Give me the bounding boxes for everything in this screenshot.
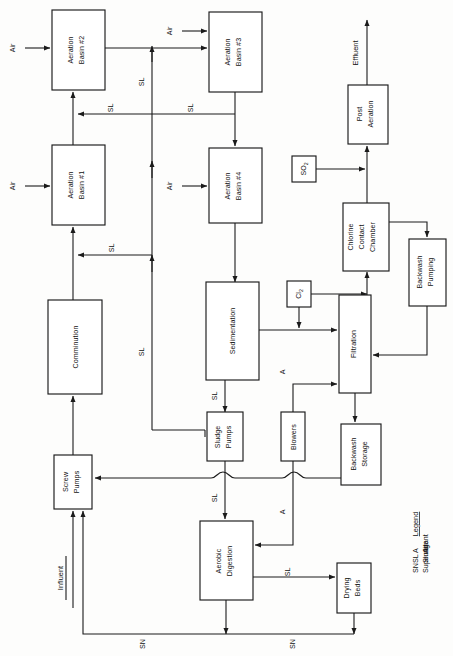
node-label-line1: Blowers bbox=[290, 424, 298, 450]
node-label-line1: Aeration bbox=[67, 36, 75, 63]
legend-heading: Legend bbox=[411, 512, 420, 537]
legend-code-sl: SL bbox=[412, 554, 420, 563]
legend: Legend A Air SL Sludge SN Supernatant bbox=[411, 512, 430, 573]
sn-label-right: SN bbox=[289, 639, 297, 649]
sl-label-return-lower: SL bbox=[108, 244, 116, 253]
legend-code-a: A bbox=[412, 548, 420, 553]
node-label-line1: Aeration bbox=[67, 171, 75, 198]
node-label-line1: Aeration bbox=[224, 172, 232, 199]
node-label-line1: Sedimentation bbox=[229, 308, 237, 355]
legend-code-sn: SN bbox=[412, 563, 420, 573]
a-label-blowers-filtration: A bbox=[279, 369, 287, 374]
node-sludge-pumps[interactable]: Sludge Pumps bbox=[207, 412, 243, 461]
node-aeration-basin-1[interactable]: Aeration Basin #1 bbox=[52, 145, 105, 225]
node-comminution[interactable]: Comminution bbox=[48, 300, 102, 394]
node-cl2-feed[interactable]: Cl2 bbox=[287, 281, 311, 307]
bus-hop-blowers bbox=[282, 472, 306, 478]
air-label-aeration4: Air bbox=[166, 181, 174, 190]
node-label-line2: Basin #1 bbox=[78, 171, 86, 199]
node-label-line2: Pumps bbox=[225, 425, 233, 448]
node-label-line2: Aeration bbox=[367, 100, 375, 127]
sn-label-left: SN bbox=[139, 639, 147, 649]
node-backwash-pumping[interactable]: Backwash Pumping bbox=[409, 239, 446, 306]
sl-label-trunk-bottom: SL bbox=[138, 348, 146, 357]
node-label-line2: Basin #4 bbox=[235, 172, 243, 200]
sl-label-to-aerobicdig: SL bbox=[211, 494, 219, 503]
node-layer: Aeration Basin #2 Aeration Basin #1 Comm… bbox=[48, 10, 446, 613]
sl-label-to-dryingbeds: SL bbox=[284, 568, 292, 577]
bus-hop-sludge bbox=[211, 472, 235, 478]
node-label-line1: Comminution bbox=[72, 326, 80, 369]
node-label-line3: Chamber bbox=[369, 222, 377, 252]
sl-label-return-upper-left: SL bbox=[107, 104, 115, 113]
terminal-influent: Influent bbox=[56, 566, 65, 590]
node-screw-pumps[interactable]: Screw Pumps bbox=[54, 455, 92, 509]
node-label-line1: Aerobic bbox=[215, 548, 223, 573]
sl-label-trunk-top: SL bbox=[138, 78, 146, 87]
node-so2-feed[interactable]: SO2 bbox=[292, 156, 316, 182]
node-sedimentation[interactable]: Sedimentation bbox=[206, 282, 259, 380]
node-filtration[interactable]: Filtration bbox=[339, 295, 371, 393]
node-aerobic-digestion[interactable]: Aerobic Digestion bbox=[200, 521, 253, 600]
terminal-effluent: Effluent bbox=[351, 41, 360, 66]
node-label-line1: Screw bbox=[62, 471, 70, 492]
node-label-line1: Aeration bbox=[224, 38, 232, 65]
sl-label-sedimentation-sludgepumps: SL bbox=[211, 392, 219, 401]
node-label-line2: Contact bbox=[358, 224, 366, 249]
node-chlorine-contact-chamber[interactable]: Chlorine Contact Chamber bbox=[343, 203, 389, 271]
node-aeration-basin-2[interactable]: Aeration Basin #2 bbox=[52, 10, 105, 90]
process-flow-diagram-canvas: Aeration Basin #2 Aeration Basin #1 Comm… bbox=[0, 0, 453, 656]
node-label-line2: Pumping bbox=[427, 258, 435, 287]
node-aeration-basin-4[interactable]: Aeration Basin #4 bbox=[209, 148, 262, 223]
air-label-aeration3: Air bbox=[166, 26, 174, 35]
edge-chlorinecontact-backwashpumping bbox=[389, 222, 427, 237]
sl-label-return-upper-right: SL bbox=[187, 104, 195, 113]
edge-backwashpumping-filtration bbox=[373, 306, 427, 355]
air-label-aeration2: Air bbox=[9, 43, 17, 52]
node-label-line1: Sludge bbox=[214, 426, 222, 449]
node-label-line2: Basin #3 bbox=[235, 38, 243, 66]
air-label-aeration1: Air bbox=[9, 181, 17, 190]
node-label-line2: Storage bbox=[361, 441, 369, 467]
node-label-line2: Basin #2 bbox=[78, 36, 86, 64]
node-label-line2: Digestion bbox=[226, 546, 234, 576]
node-aeration-basin-3[interactable]: Aeration Basin #3 bbox=[209, 12, 262, 92]
edge-blowers-aerobicdig-air bbox=[255, 461, 293, 545]
node-label-line1: Post bbox=[356, 107, 364, 122]
node-label-line1: Backwash bbox=[416, 255, 424, 288]
node-label-line1: Filtration bbox=[350, 330, 358, 358]
node-backwash-storage[interactable]: Backwash Storage bbox=[341, 424, 381, 485]
node-label-line1: Drying bbox=[343, 577, 351, 598]
a-label-blowers-aerobicdig: A bbox=[279, 509, 287, 514]
flow-diagram-svg: Aeration Basin #2 Aeration Basin #1 Comm… bbox=[0, 0, 453, 656]
node-label-line1: Chlorine bbox=[347, 223, 355, 250]
node-blowers[interactable]: Blowers bbox=[281, 412, 305, 461]
node-label-line1: Backwash bbox=[350, 437, 358, 470]
edge-blowers-filtration-air bbox=[293, 384, 337, 412]
node-drying-beds[interactable]: Drying Beds bbox=[337, 563, 371, 613]
legend-meaning-sn: Supernatant bbox=[422, 534, 430, 573]
node-label-line2: Beds bbox=[354, 579, 362, 596]
node-post-aeration[interactable]: Post Aeration bbox=[348, 85, 388, 144]
node-label-line2: Pumps bbox=[73, 470, 81, 493]
